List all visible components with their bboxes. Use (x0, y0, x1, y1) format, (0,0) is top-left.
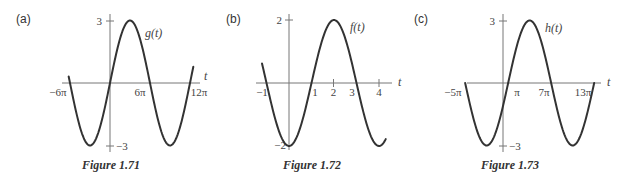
panel-c: (c) 3 −3 −5π π 7π 13π t h(t) Figure 1.73 (414, 12, 611, 172)
panel-b: (b) 2 −2 −1 1 2 3 4 t f(t) Figure 1.72 (226, 12, 402, 172)
y-tick-label-top-a: 3 (97, 15, 103, 27)
caption-b: Figure 1.72 (282, 158, 341, 172)
figure-set: (a) 3 −3 −6π 6π 12π t g(t) Figure 1.71 (… (0, 0, 625, 179)
x-tick-label-c-0: −5π (444, 86, 462, 98)
x-tick-label-b-1: 1 (312, 86, 318, 98)
function-label-h: h(t) (545, 21, 562, 35)
x-axis-var-c: t (607, 75, 611, 89)
x-tick-label-b-2: 2 (331, 86, 337, 98)
x-tick-label-a-2: 12π (191, 86, 208, 98)
x-axis-var-b: t (398, 75, 402, 89)
function-label-g: g(t) (145, 26, 162, 40)
y-tick-label-top-b: 2 (277, 14, 283, 26)
x-tick-label-c-2: 7π (538, 86, 550, 98)
caption-a: Figure 1.71 (81, 158, 140, 172)
x-tick-label-b-4: 4 (376, 86, 382, 98)
x-tick-label-a-0: −6π (49, 86, 67, 98)
panel-label-c: (c) (414, 12, 428, 26)
x-tick-label-c-1: π (514, 86, 520, 98)
panel-label-a: (a) (16, 12, 31, 26)
panel-a: (a) 3 −3 −6π 6π 12π t g(t) Figure 1.71 (16, 12, 208, 172)
y-tick-label-bottom-c: −3 (509, 140, 521, 152)
x-tick-label-b-3: 3 (349, 86, 355, 98)
x-axis-var-a: t (204, 69, 208, 83)
x-tick-label-c-3: 13π (575, 86, 592, 98)
x-tick-label-b-0: −1 (256, 86, 268, 98)
panel-label-b: (b) (226, 12, 241, 26)
x-tick-label-a-1: 6π (134, 86, 146, 98)
y-tick-label-bottom-a: −3 (116, 140, 128, 152)
y-tick-label-top-c: 3 (490, 15, 496, 27)
caption-c: Figure 1.73 (480, 158, 539, 172)
function-label-f: f(t) (350, 20, 365, 34)
